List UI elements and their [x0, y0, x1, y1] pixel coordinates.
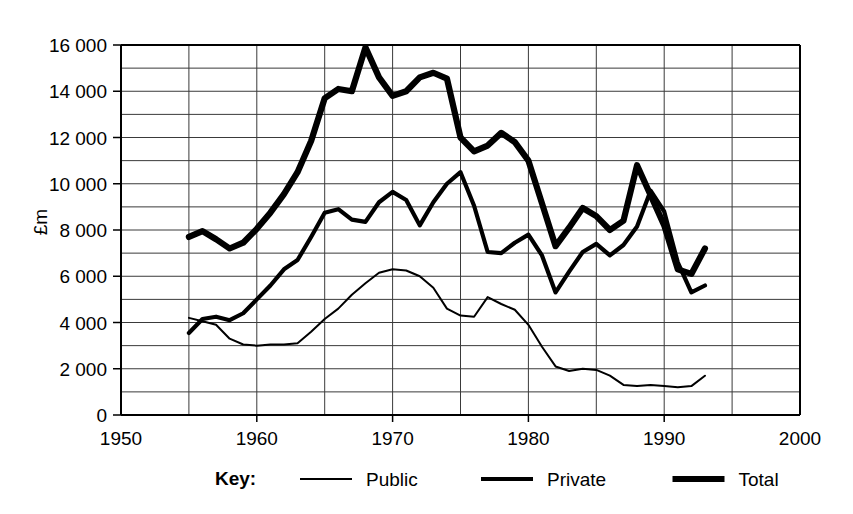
y-tick-label: 6 000 [59, 266, 107, 287]
x-tick-label: 1990 [643, 428, 685, 449]
data-series-layer [189, 47, 705, 387]
y-axis-tick-labels: 02 0004 0006 0008 00010 00012 00014 0001… [49, 35, 107, 426]
legend-title: Key: [215, 468, 256, 489]
x-tick-label: 1950 [100, 428, 142, 449]
y-axis-title: £m [30, 209, 51, 235]
legend-label-private: Private [547, 469, 606, 490]
legend-label-total: Total [739, 469, 779, 490]
chart-figure: 02 0004 0006 0008 00010 00012 00014 0001… [0, 0, 853, 514]
x-tick-label: 1960 [236, 428, 278, 449]
y-tick-label: 16 000 [49, 35, 107, 56]
y-tick-label: 12 000 [49, 128, 107, 149]
chart-legend: Key: PublicPrivateTotal [215, 468, 779, 490]
y-tick-label: 8 000 [59, 220, 107, 241]
x-tick-label: 1980 [507, 428, 549, 449]
line-chart: 02 0004 0006 0008 00010 00012 00014 0001… [0, 0, 853, 514]
x-tick-label: 1970 [371, 428, 413, 449]
x-tick-label: 2000 [779, 428, 821, 449]
y-tick-label: 0 [96, 405, 107, 426]
x-axis-tick-labels: 195019601970198019902000 [100, 428, 821, 449]
legend-label-public: Public [366, 469, 418, 490]
y-tick-label: 4 000 [59, 313, 107, 334]
y-tick-label: 14 000 [49, 81, 107, 102]
y-tick-label: 10 000 [49, 174, 107, 195]
y-tick-label: 2 000 [59, 359, 107, 380]
